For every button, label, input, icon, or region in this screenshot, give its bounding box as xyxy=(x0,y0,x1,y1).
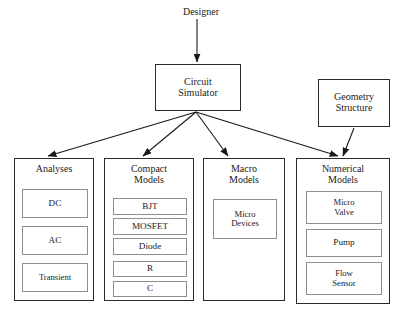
item-transient-label: Transient xyxy=(39,273,71,282)
item-ac-label: AC xyxy=(49,236,62,246)
item-ac[interactable]: AC xyxy=(22,226,88,255)
column-numerical-models-title: Numerical Models xyxy=(322,164,364,186)
item-r[interactable]: R xyxy=(113,261,187,277)
node-geometry-structure-label: Geometry Structure xyxy=(334,92,374,114)
item-micro-devices[interactable]: Micro Devices xyxy=(213,199,277,239)
item-diode[interactable]: Diode xyxy=(113,238,187,255)
designer-label: Designer xyxy=(0,6,402,17)
item-transient[interactable]: Transient xyxy=(22,263,88,292)
item-mosfet[interactable]: MOSFET xyxy=(113,218,187,235)
node-circuit-simulator[interactable]: Circuit Simulator xyxy=(155,64,241,111)
node-geometry-structure[interactable]: Geometry Structure xyxy=(318,79,390,127)
item-r-label: R xyxy=(147,264,153,274)
edge-simulator-to-macro xyxy=(196,112,228,156)
column-analyses[interactable]: AnalysesDCACTransient xyxy=(14,158,94,301)
item-dc[interactable]: DC xyxy=(22,189,88,218)
column-macro-models-title: Macro Models xyxy=(229,164,259,186)
item-pump[interactable]: Pump xyxy=(306,229,382,257)
item-micro-valve[interactable]: Micro Valve xyxy=(306,191,382,224)
column-compact-models-title: Compact Models xyxy=(131,164,167,186)
item-diode-label: Diode xyxy=(139,242,161,252)
column-analyses-title: Analyses xyxy=(36,164,73,175)
item-mosfet-label: MOSFET xyxy=(132,222,168,232)
column-numerical-models[interactable]: Numerical ModelsMicro ValvePumpFlow Sens… xyxy=(296,158,390,304)
edge-simulator-to-compact xyxy=(143,112,196,156)
item-micro-devices-label: Micro Devices xyxy=(231,210,259,229)
item-dc-label: DC xyxy=(49,199,62,209)
item-c[interactable]: C xyxy=(113,281,187,297)
item-pump-label: Pump xyxy=(333,238,354,248)
item-micro-valve-label: Micro Valve xyxy=(333,198,354,217)
node-circuit-simulator-label: Circuit Simulator xyxy=(178,77,217,99)
system-architecture-diagram: Designer Circuit SimulatorGeometry Struc… xyxy=(0,0,402,321)
edge-simulator-to-numerical xyxy=(196,112,338,156)
item-bjt-label: BJT xyxy=(142,202,157,212)
edge-simulator-to-analyses xyxy=(48,112,196,156)
item-bjt[interactable]: BJT xyxy=(113,198,187,215)
item-c-label: C xyxy=(147,284,153,294)
item-flow-sensor-label: Flow Sensor xyxy=(332,269,355,288)
column-macro-models[interactable]: Macro ModelsMicro Devices xyxy=(203,158,285,301)
column-compact-models[interactable]: Compact ModelsBJTMOSFETDiodeRC xyxy=(104,158,194,301)
edge-geometry-to-numerical xyxy=(343,128,354,156)
item-flow-sensor[interactable]: Flow Sensor xyxy=(306,262,382,295)
